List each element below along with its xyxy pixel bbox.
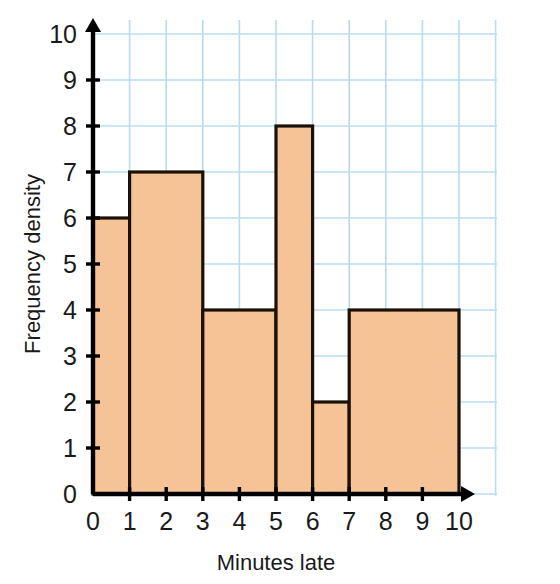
x-tick-label: 1 — [123, 507, 137, 535]
x-tick-label: 5 — [269, 507, 283, 535]
x-tick-label: 4 — [232, 507, 246, 535]
histogram-bar — [349, 310, 459, 494]
histogram-bar — [276, 126, 313, 494]
y-axis-title: Frequency density — [20, 174, 45, 354]
y-tick-label: 2 — [63, 388, 77, 416]
x-axis-title: Minutes late — [217, 550, 336, 575]
x-tick-label: 6 — [306, 507, 320, 535]
y-tick-label: 0 — [63, 480, 77, 508]
y-tick-label: 7 — [63, 158, 77, 186]
histogram-chart: 012345678910 012345678910 Minutes late F… — [0, 0, 560, 584]
histogram-bar — [313, 402, 350, 494]
histogram-bar — [130, 172, 203, 494]
y-tick-label: 6 — [63, 204, 77, 232]
x-tick-label: 0 — [86, 507, 100, 535]
histogram-svg: 012345678910 012345678910 Minutes late F… — [0, 0, 560, 584]
y-tick-label: 1 — [63, 434, 77, 462]
histogram-bar — [203, 310, 276, 494]
x-tick-label: 10 — [445, 507, 473, 535]
x-tick-label: 8 — [379, 507, 393, 535]
y-tick-label: 4 — [63, 296, 77, 324]
y-tick-label: 3 — [63, 342, 77, 370]
y-tick-label: 10 — [49, 20, 77, 48]
x-tick-label: 9 — [415, 507, 429, 535]
x-tick-label: 2 — [159, 507, 173, 535]
y-tick-label: 5 — [63, 250, 77, 278]
y-tick-label: 8 — [63, 112, 77, 140]
x-tick-label: 3 — [196, 507, 210, 535]
x-tick-label: 7 — [342, 507, 356, 535]
y-tick-label: 9 — [63, 66, 77, 94]
